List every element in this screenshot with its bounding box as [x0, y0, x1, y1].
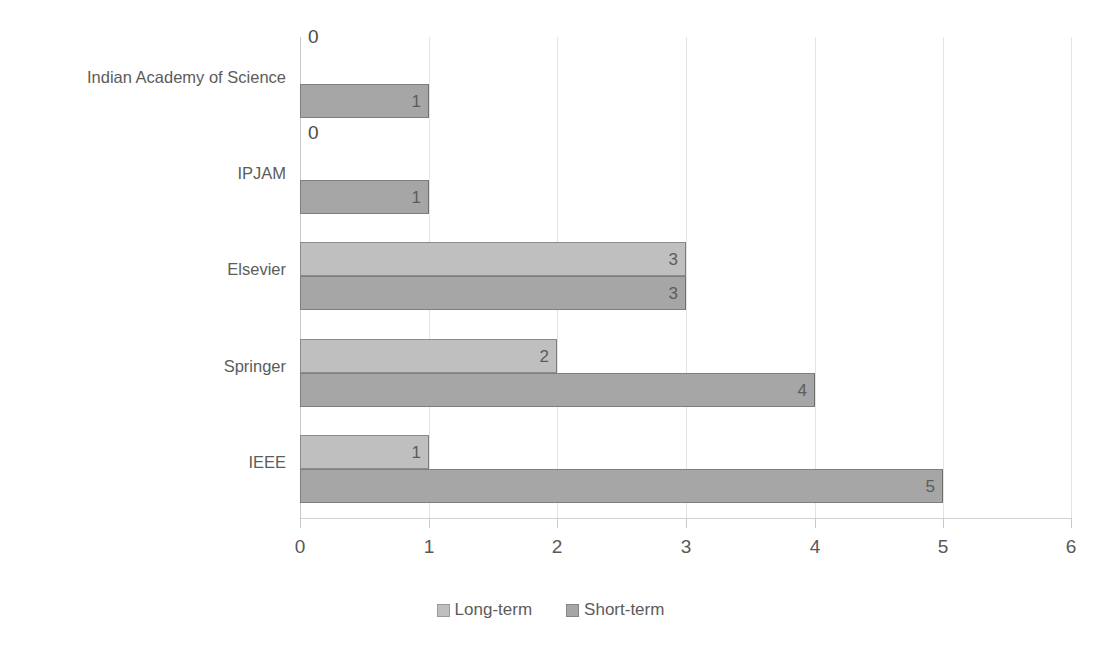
- x-tick-label-6: 6: [1066, 536, 1077, 558]
- bar-group-elsevier: 3 3: [300, 229, 1072, 325]
- bar-row-short-term: 1: [300, 84, 1072, 118]
- bar-short-term[interactable]: 1: [300, 180, 429, 214]
- bar-row-long-term: 1: [300, 435, 1072, 469]
- bar-value-long-term: 0: [308, 24, 319, 50]
- legend-label-long-term: Long-term: [455, 600, 532, 620]
- x-tick-4: [815, 518, 816, 528]
- bar-row-short-term: 4: [300, 373, 1072, 407]
- category-label-indian-academy-of-science: Indian Academy of Science: [87, 68, 286, 87]
- bar-group-ieee: 1 5: [300, 422, 1072, 518]
- x-tick-label-0: 0: [295, 536, 306, 558]
- bar-group-ipjam: 0 1: [300, 133, 1072, 229]
- bar-row-short-term: 3: [300, 276, 1072, 310]
- x-tick-3: [686, 518, 687, 528]
- bar-value-short-term: 1: [412, 85, 421, 119]
- category-label-ieee: IEEE: [248, 453, 286, 472]
- x-tick-label-4: 4: [810, 536, 821, 558]
- legend-label-short-term: Short-term: [584, 600, 664, 620]
- legend-swatch-short-term-icon: [566, 604, 579, 617]
- bar-row-short-term: 1: [300, 180, 1072, 214]
- bar-long-term[interactable]: 1: [300, 435, 429, 469]
- bar-value-short-term: 3: [669, 277, 678, 311]
- x-tick-1: [429, 518, 430, 528]
- bar-short-term[interactable]: 3: [300, 276, 686, 310]
- bar-value-long-term: 1: [412, 436, 421, 470]
- x-tick-label-5: 5: [938, 536, 949, 558]
- plot-area: 0 1 0 1 3: [300, 37, 1072, 518]
- bar-value-long-term: 3: [669, 243, 678, 277]
- category-label-springer: Springer: [224, 357, 286, 376]
- x-tick-2: [557, 518, 558, 528]
- x-tick-6: [1071, 518, 1072, 528]
- bar-row-long-term: 0: [300, 50, 1072, 84]
- chart-legend: Long-term Short-term: [0, 600, 1101, 620]
- category-axis-labels: Indian Academy of Science IPJAM Elsevier…: [0, 37, 300, 518]
- x-tick-label-2: 2: [552, 536, 563, 558]
- legend-swatch-long-term-icon: [437, 604, 450, 617]
- legend-item-short-term[interactable]: Short-term: [566, 600, 664, 620]
- bar-short-term[interactable]: 1: [300, 84, 429, 118]
- bar-short-term[interactable]: 4: [300, 373, 815, 407]
- bar-value-long-term: 0: [308, 120, 319, 146]
- bar-row-long-term: 3: [300, 242, 1072, 276]
- bar-value-long-term: 2: [540, 340, 549, 374]
- x-tick-0: [300, 518, 301, 528]
- bar-long-term[interactable]: 2: [300, 339, 557, 373]
- bar-chart: Indian Academy of Science IPJAM Elsevier…: [0, 0, 1101, 652]
- x-tick-5: [943, 518, 944, 528]
- bar-short-term[interactable]: 5: [300, 469, 943, 503]
- bar-row-long-term: 0: [300, 146, 1072, 180]
- bar-group-springer: 2 4: [300, 326, 1072, 422]
- bar-group-indian-academy-of-science: 0 1: [300, 37, 1072, 133]
- bar-value-short-term: 4: [798, 374, 807, 408]
- bar-row-long-term: 2: [300, 339, 1072, 373]
- x-tick-label-1: 1: [424, 536, 435, 558]
- category-label-ipjam: IPJAM: [237, 164, 286, 183]
- bar-long-term[interactable]: 3: [300, 242, 686, 276]
- bar-value-short-term: 5: [926, 470, 935, 504]
- bar-value-short-term: 1: [412, 181, 421, 215]
- category-label-elsevier: Elsevier: [227, 260, 286, 279]
- x-tick-label-3: 3: [681, 536, 692, 558]
- legend-item-long-term[interactable]: Long-term: [437, 600, 532, 620]
- bar-row-short-term: 5: [300, 469, 1072, 503]
